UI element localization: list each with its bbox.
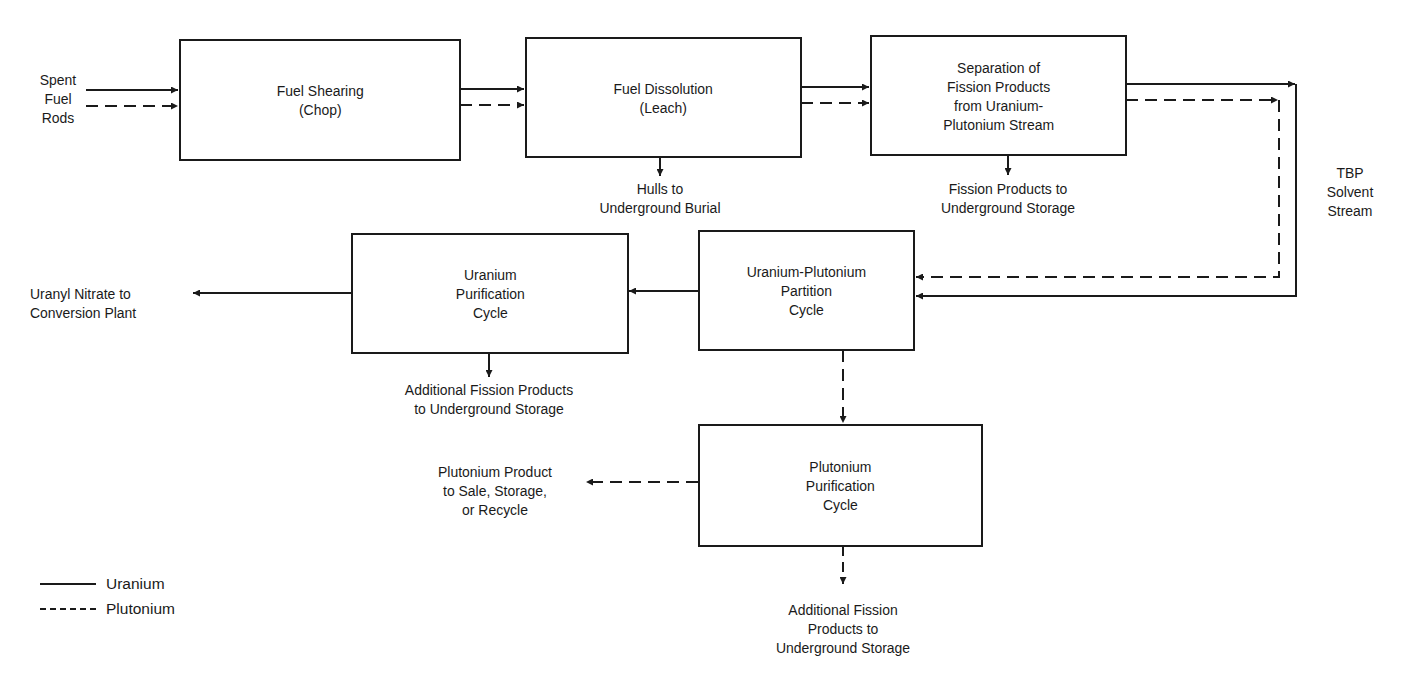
tbp-solvent-label: TBP Solvent Stream — [1310, 163, 1390, 220]
dashed-line-icon — [40, 608, 96, 610]
fuel-dissolution-box: Fuel Dissolution (Leach) — [525, 37, 802, 158]
partition-box: Uranium-Plutonium Partition Cycle — [698, 230, 915, 351]
separation-box: Separation of Fission Products from Uran… — [870, 35, 1127, 156]
additional-fp-plutonium-label: Additional Fission Products to Undergrou… — [748, 600, 938, 657]
plutonium-product-label: Plutonium Product to Sale, Storage, or R… — [410, 462, 580, 519]
fuel-shearing-box: Fuel Shearing (Chop) — [179, 39, 461, 161]
solid-line-icon — [40, 583, 96, 585]
additional-fp-uranium-label: Additional Fission Products to Undergrou… — [374, 380, 604, 418]
legend-plutonium: Plutonium — [40, 600, 175, 618]
plutonium-purification-box: Plutonium Purification Cycle — [698, 424, 983, 547]
uranyl-nitrate-label: Uranyl Nitrate to Conversion Plant — [30, 284, 178, 322]
uranium-purification-box: Uranium Purification Cycle — [351, 233, 629, 354]
fission-products-label: Fission Products to Underground Storage — [908, 179, 1108, 217]
legend-uranium: Uranium — [40, 575, 165, 593]
spent-fuel-rods-label: Spent Fuel Rods — [30, 70, 86, 127]
hulls-label: Hulls to Underground Burial — [565, 179, 755, 217]
